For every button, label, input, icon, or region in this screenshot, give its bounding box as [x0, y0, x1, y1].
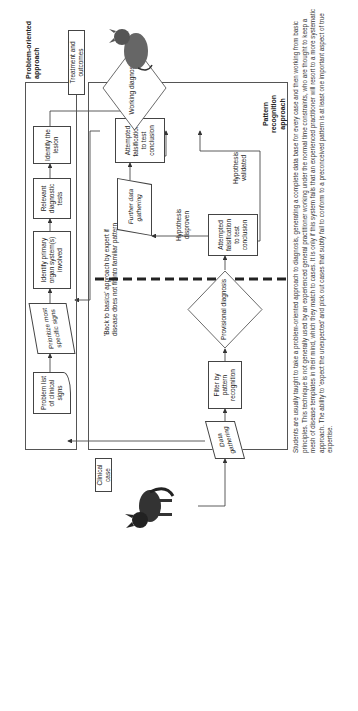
- hypothesis-disproven-label: Hypothesis disproven: [175, 207, 195, 243]
- clinical-case-label: Clinical case: [95, 458, 112, 492]
- problem-oriented-title: Problem-oriented approach: [25, 4, 55, 79]
- filter-pattern-box: Filter by pattern recognition: [208, 361, 242, 409]
- diagram-canvas: Problem-oriented approach Problem list o…: [0, 0, 358, 711]
- falsification-box-1: Attempted falsification to test conclusi…: [208, 214, 258, 256]
- relevant-tests-box: Relevant diagnostic tests: [33, 178, 71, 219]
- provisional-diagnosis-label: Provisional diagnosis: [220, 275, 232, 344]
- back-to-basics-label: 'Back to basics' approach by expert if d…: [103, 206, 123, 336]
- hypothesis-validated-label: Hypothesis validated: [232, 150, 252, 186]
- figure-caption: Students are usually taught to take a pr…: [292, 3, 354, 453]
- cat-illustration-start: [118, 484, 178, 536]
- treatment-outcomes-box: Treatment and outcomes: [68, 30, 85, 95]
- problem-list-box: Problem list of clinical signs: [33, 372, 71, 414]
- pattern-recognition-title: Pattern recognition approach: [262, 83, 286, 145]
- identify-lesion-box: Identify the lesion: [33, 126, 71, 164]
- identify-organ-box: Identify primary organ system(s) involve…: [33, 231, 71, 289]
- cat-illustration-end: [108, 23, 156, 73]
